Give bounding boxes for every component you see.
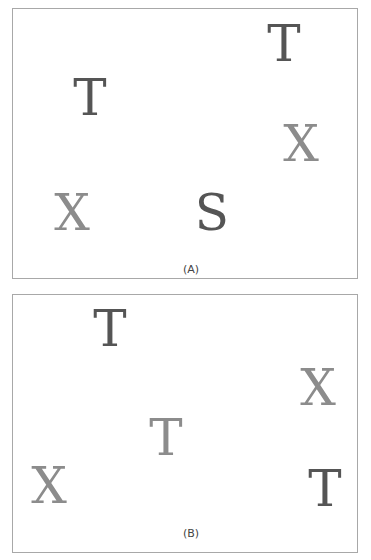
stimulus-letter-t-dark: T bbox=[267, 19, 300, 69]
panel-caption: (B) bbox=[183, 527, 199, 540]
stimulus-letter-t-light: T bbox=[149, 413, 182, 463]
stimulus-letter-t-dark: T bbox=[93, 304, 126, 354]
stimulus-letter-t-dark: T bbox=[73, 73, 106, 123]
stimulus-letter-s-dark: S bbox=[195, 188, 229, 238]
stimulus-letter-x-light: X bbox=[31, 461, 67, 511]
stimulus-letter-t-dark: T bbox=[308, 464, 341, 514]
panel-a: TTXXS(A) bbox=[12, 8, 358, 279]
panel-b: TXTXT(B) bbox=[12, 294, 358, 553]
stimulus-letter-x-light: X bbox=[300, 363, 336, 413]
stimulus-letter-x-light: X bbox=[54, 188, 90, 238]
stimulus-letter-x-light: X bbox=[283, 119, 319, 169]
panel-caption: (A) bbox=[183, 263, 199, 276]
